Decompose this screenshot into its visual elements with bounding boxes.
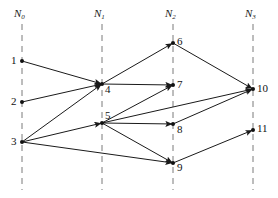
- node-dot-9: [171, 161, 175, 165]
- edge-5-9: [103, 124, 172, 163]
- node-label-2: 2: [11, 96, 17, 107]
- layer-label-n0: N0: [14, 8, 25, 19]
- node-label-6: 6: [177, 36, 183, 47]
- node-label-3: 3: [11, 136, 17, 147]
- edge-1-4: [23, 61, 101, 83]
- diagram-canvas: [0, 0, 278, 198]
- layer-label-n3: N3: [245, 8, 256, 19]
- node-label-9: 9: [177, 162, 183, 173]
- node-label-4: 4: [105, 84, 111, 95]
- node-label-7: 7: [177, 79, 183, 90]
- edge-8-10: [174, 89, 252, 123]
- node-dot-2: [20, 100, 24, 104]
- edge-6-10: [174, 44, 252, 89]
- node-label-8: 8: [177, 124, 183, 135]
- node-dot-1: [20, 59, 24, 63]
- node-label-11: 11: [257, 123, 268, 134]
- layer-label-n2: N2: [165, 8, 176, 19]
- layer-label-subscript: 0: [21, 13, 25, 21]
- edge-4-7: [103, 84, 172, 85]
- node-dot-7: [171, 83, 175, 87]
- node-label-1: 1: [11, 55, 17, 66]
- edge-5-8: [103, 123, 172, 124]
- layer-label-n1: N1: [94, 8, 105, 19]
- edge-3-9: [23, 142, 172, 163]
- node-label-10: 10: [257, 83, 268, 94]
- edge-5-7: [103, 86, 172, 123]
- node-dot-10: [251, 87, 255, 91]
- network-diagram: N0N1N2N3 1234567891011: [0, 0, 278, 198]
- node-dot-4: [100, 82, 104, 86]
- edge-5-10: [103, 89, 252, 122]
- edges-group: [23, 44, 252, 163]
- layer-label-subscript: 3: [252, 13, 256, 21]
- node-dot-5: [100, 121, 104, 125]
- node-dot-11: [251, 128, 255, 132]
- layer-guide-lines: [22, 24, 253, 190]
- node-label-5: 5: [105, 110, 111, 121]
- edge-4-6: [103, 44, 172, 84]
- layer-label-subscript: 2: [172, 13, 176, 21]
- node-dot-8: [171, 122, 175, 126]
- node-dot-6: [171, 41, 175, 45]
- layer-label-subscript: 1: [101, 13, 105, 21]
- edge-9-11: [174, 130, 252, 162]
- node-dot-3: [20, 140, 24, 144]
